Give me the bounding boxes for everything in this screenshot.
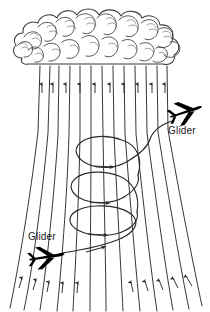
thermal-diagram: Glider Glider — [0, 0, 210, 312]
cumulus-cloud — [14, 9, 180, 64]
helix-direction-arrowheads — [86, 166, 112, 252]
updraft-flow-lines — [10, 66, 202, 311]
glider-lower-label: Glider — [28, 231, 56, 242]
diagram-canvas: Glider Glider — [0, 0, 210, 312]
glider-lower: Glider — [27, 231, 66, 271]
glider-upper-label: Glider — [168, 125, 196, 136]
glider-upper: Glider — [165, 96, 205, 136]
cloud-outline — [14, 9, 179, 64]
glider-upper-silhouette — [165, 96, 205, 129]
